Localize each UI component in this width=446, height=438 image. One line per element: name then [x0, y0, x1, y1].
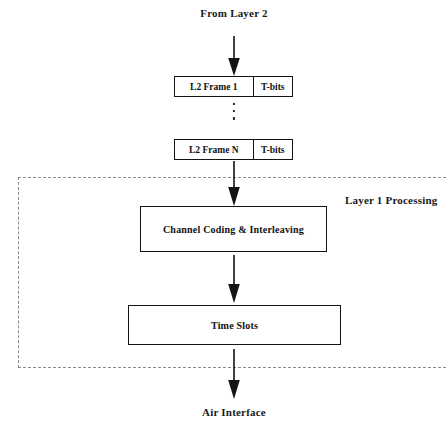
from-layer-2-label: From Layer 2: [200, 7, 267, 19]
vertical-ellipsis-icon: [233, 103, 235, 120]
layer-1-processing-label: Layer 1 Processing: [345, 194, 437, 206]
layer1-region-left-boundary: [18, 177, 19, 368]
ellipsis-dot: [233, 103, 235, 105]
l2-frame-1-box: L2 Frame 1 T-bits: [174, 76, 293, 97]
diagram-canvas: From Layer 2 L2 Frame 1 T-bits L2 Frame …: [0, 0, 446, 438]
arrow-channel-coding-to-time-slots: [225, 255, 243, 303]
ellipsis-dot: [233, 117, 235, 119]
channel-coding-block: Channel Coding & Interleaving: [140, 206, 327, 252]
arrow-time-slots-to-air-interface: [225, 349, 243, 399]
l2-frame-n-tbits: T-bits: [253, 140, 292, 159]
time-slots-block: Time Slots: [128, 305, 341, 345]
ellipsis-dot: [233, 110, 235, 112]
l2-frame-1-tbits: T-bits: [253, 77, 292, 96]
l2-frame-n-box: L2 Frame N T-bits: [174, 139, 293, 160]
l2-frame-1-name: L2 Frame 1: [175, 77, 253, 96]
air-interface-label: Air Interface: [202, 406, 266, 418]
arrow-from-layer2-to-frame1: [225, 36, 243, 76]
l2-frame-n-name: L2 Frame N: [175, 140, 253, 159]
arrow-frames-to-channel-coding: [225, 161, 243, 206]
